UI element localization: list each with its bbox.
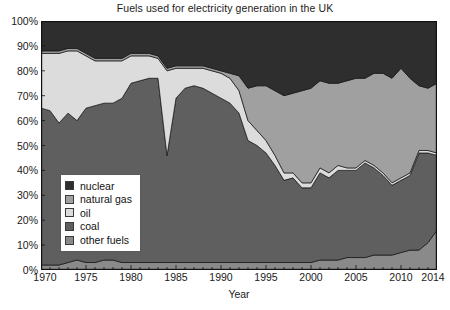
y-tick-label: 30% [0, 190, 38, 201]
legend-item: natural gas [65, 193, 132, 207]
y-tick-label: 70% [0, 90, 38, 101]
x-tick-label: 2000 [299, 272, 322, 283]
legend-item: nuclear [65, 179, 132, 193]
y-tick-label: 10% [0, 240, 38, 251]
x-tick-label: 2010 [389, 272, 412, 283]
x-axis-title: Year [41, 288, 437, 300]
x-tick-label: 1975 [74, 272, 97, 283]
y-tick-label: 60% [0, 115, 38, 126]
chart-title: Fuels used for electricity generation in… [0, 2, 450, 14]
legend-swatch-oil [65, 208, 74, 217]
y-tick-label: 80% [0, 66, 38, 77]
x-tick-label: 2005 [344, 272, 367, 283]
legend-item: other fuels [65, 233, 132, 247]
y-tick-label: 40% [0, 165, 38, 176]
x-tick-label: 1985 [164, 272, 187, 283]
legend-label: oil [80, 208, 91, 219]
legend-swatch-coal [65, 222, 74, 231]
x-tick-label: 1980 [119, 272, 142, 283]
chart-figure: Fuels used for electricity generation in… [0, 0, 450, 310]
legend-label: natural gas [80, 194, 132, 205]
x-tick-label: 1970 [33, 272, 56, 283]
x-tick-label: 2014 [421, 272, 444, 283]
y-tick-label: 100% [0, 16, 38, 27]
legend-item: oil [65, 206, 132, 220]
y-axis-tick-labels: 0%10%20%30%40%50%60%70%80%90%100% [0, 0, 38, 310]
legend-item: coal [65, 220, 132, 234]
chart-legend: nuclearnatural gasoilcoalother fuels [60, 174, 141, 252]
x-tick-label: 1995 [254, 272, 277, 283]
y-tick-label: 50% [0, 140, 38, 151]
y-tick-label: 90% [0, 41, 38, 52]
legend-label: other fuels [80, 235, 129, 246]
legend-label: coal [80, 221, 99, 232]
legend-swatch-nuclear [65, 181, 74, 190]
x-tick-label: 1990 [209, 272, 232, 283]
legend-swatch-other-fuels [65, 236, 74, 245]
legend-label: nuclear [80, 181, 114, 192]
x-axis-tick-labels: 1970197519801985199019952000200520102014 [0, 272, 450, 288]
legend-swatch-natural-gas [65, 195, 74, 204]
y-tick-label: 20% [0, 215, 38, 226]
